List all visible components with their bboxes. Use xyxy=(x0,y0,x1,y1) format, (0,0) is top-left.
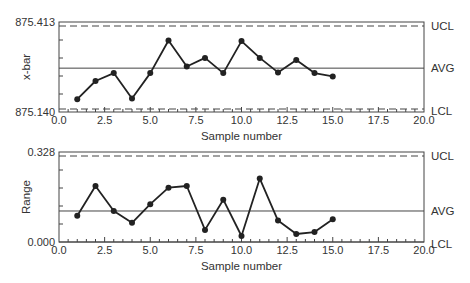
lcl-label: LCL xyxy=(431,105,453,117)
data-point-marker xyxy=(239,38,245,44)
data-point-marker xyxy=(74,96,80,102)
data-point-marker xyxy=(166,185,172,191)
data-point-marker xyxy=(202,227,208,233)
x-tick-label: 2.5 xyxy=(97,244,112,256)
x-tick-label: 7.5 xyxy=(188,244,203,256)
data-point-marker xyxy=(147,201,153,207)
lcl-label: LCL xyxy=(431,238,453,250)
x-tick-label: 10.0 xyxy=(231,244,252,256)
data-point-marker xyxy=(93,183,99,189)
data-point-marker xyxy=(166,37,172,43)
data-point-marker xyxy=(220,197,226,203)
x-tick-label: 7.5 xyxy=(188,114,203,126)
control-charts: 0.02.55.07.510.012.515.017.520.0875.1408… xyxy=(0,0,470,283)
avg-label: AVG xyxy=(431,205,454,217)
xbar-chart: 0.02.55.07.510.012.515.017.520.0875.1408… xyxy=(15,16,454,142)
data-point-marker xyxy=(293,57,299,63)
x-tick-label: 17.5 xyxy=(368,114,389,126)
data-point-marker xyxy=(312,229,318,235)
x-tick-label: 15.0 xyxy=(322,244,343,256)
data-point-marker xyxy=(202,55,208,61)
x-tick-label: 12.5 xyxy=(276,114,297,126)
data-point-marker xyxy=(257,55,263,61)
data-point-marker xyxy=(239,233,245,239)
data-point-marker xyxy=(111,70,117,76)
ucl-label: UCL xyxy=(431,150,455,162)
range-chart: 0.02.55.07.510.012.515.017.520.00.0000.3… xyxy=(20,146,455,272)
x-axis-title: Sample number xyxy=(201,130,282,142)
x-axis-title: Sample number xyxy=(201,260,282,272)
y-tick-label-min: 0.000 xyxy=(27,236,55,248)
x-tick-label: 12.5 xyxy=(276,244,297,256)
data-point-marker xyxy=(93,78,99,84)
data-point-marker xyxy=(275,69,281,75)
data-point-marker xyxy=(330,216,336,222)
plot-frame xyxy=(59,22,424,112)
data-point-marker xyxy=(220,70,226,76)
data-point-marker xyxy=(74,213,80,219)
data-point-marker xyxy=(129,220,135,226)
y-tick-label-min: 875.140 xyxy=(15,106,55,118)
x-tick-label: 17.5 xyxy=(368,244,389,256)
data-point-marker xyxy=(147,70,153,76)
x-tick-label: 10.0 xyxy=(231,114,252,126)
data-point-marker xyxy=(293,231,299,237)
data-point-marker xyxy=(275,218,281,224)
y-tick-label-max: 875.413 xyxy=(15,16,55,28)
plot-frame xyxy=(59,152,424,242)
data-point-marker xyxy=(184,64,190,70)
data-point-marker xyxy=(312,70,318,76)
data-point-marker xyxy=(111,208,117,214)
data-point-marker xyxy=(184,183,190,189)
y-axis-title: x-bar xyxy=(20,54,32,80)
avg-label: AVG xyxy=(431,62,454,74)
data-series-line xyxy=(77,41,332,100)
data-point-marker xyxy=(129,95,135,101)
y-axis-title: Range xyxy=(20,180,32,214)
x-tick-label: 15.0 xyxy=(322,114,343,126)
x-tick-label: 2.5 xyxy=(97,114,112,126)
data-point-marker xyxy=(257,176,263,182)
x-tick-label: 5.0 xyxy=(143,114,158,126)
y-tick-label-max: 0.328 xyxy=(27,146,55,158)
data-point-marker xyxy=(330,73,336,79)
ucl-label: UCL xyxy=(431,20,455,32)
x-tick-label: 5.0 xyxy=(143,244,158,256)
